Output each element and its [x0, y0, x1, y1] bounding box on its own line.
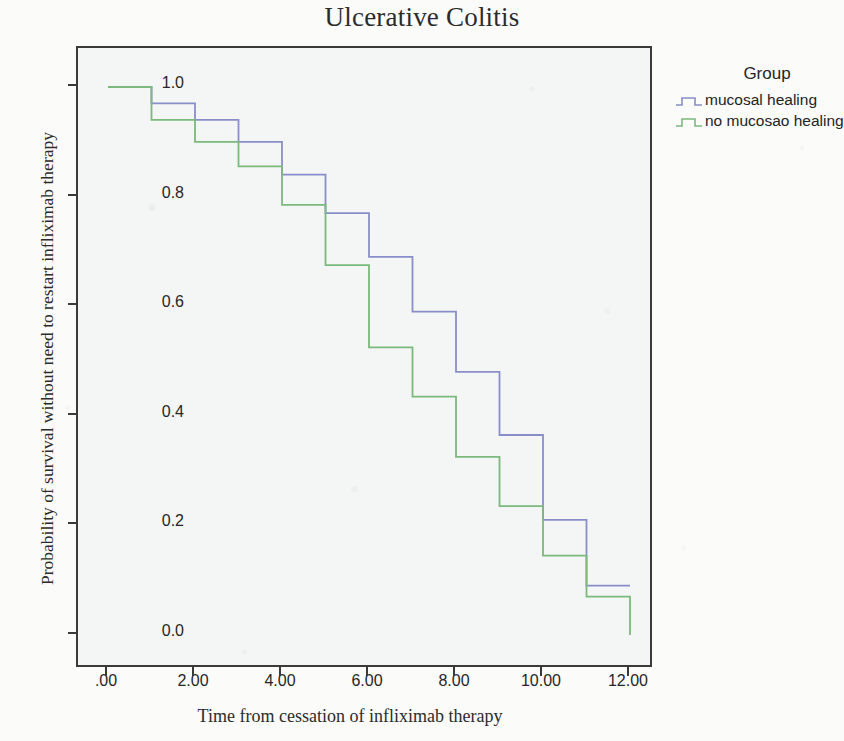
- x-tick-mark: [627, 667, 629, 676]
- y-tick-mark: [68, 194, 76, 196]
- y-tick-mark: [68, 84, 76, 86]
- plot-area: [76, 46, 652, 667]
- legend-items: mucosal healingno mucosao healing: [676, 91, 844, 130]
- chart-title: Ulcerative Colitis: [0, 2, 844, 33]
- x-tick-mark: [105, 667, 107, 676]
- curves-svg: [78, 48, 654, 669]
- y-tick-label: 0.8: [136, 184, 184, 202]
- x-axis-label: Time from cessation of infliximab therap…: [0, 706, 700, 727]
- x-tick-mark: [540, 667, 542, 676]
- legend-item: no mucosao healing: [676, 112, 844, 130]
- y-tick-label: 0.6: [136, 293, 184, 311]
- x-tick-mark: [366, 667, 368, 676]
- legend-item: mucosal healing: [676, 91, 844, 109]
- x-tick-mark: [279, 667, 281, 676]
- x-tick-mark: [192, 667, 194, 676]
- y-tick-mark: [68, 632, 76, 634]
- y-axis-label: Probability of survival without need to …: [37, 54, 58, 664]
- x-tick-mark: [453, 667, 455, 676]
- legend-item-label: no mucosao healing: [705, 112, 844, 130]
- y-tick-label: 0.0: [136, 622, 184, 640]
- y-tick-mark: [68, 522, 76, 524]
- y-tick-label: 0.2: [136, 512, 184, 530]
- y-tick-mark: [68, 303, 76, 305]
- legend-item-label: mucosal healing: [705, 91, 817, 109]
- legend-title: Group: [690, 64, 844, 84]
- y-tick-label: 0.4: [136, 403, 184, 421]
- legend: Group mucosal healingno mucosao healing: [676, 58, 844, 133]
- survival-curve: [108, 87, 630, 635]
- y-tick-label: 1.0: [136, 74, 184, 92]
- legend-step-marker-icon: [676, 94, 702, 107]
- legend-step-marker-icon: [676, 115, 702, 128]
- y-tick-mark: [68, 413, 76, 415]
